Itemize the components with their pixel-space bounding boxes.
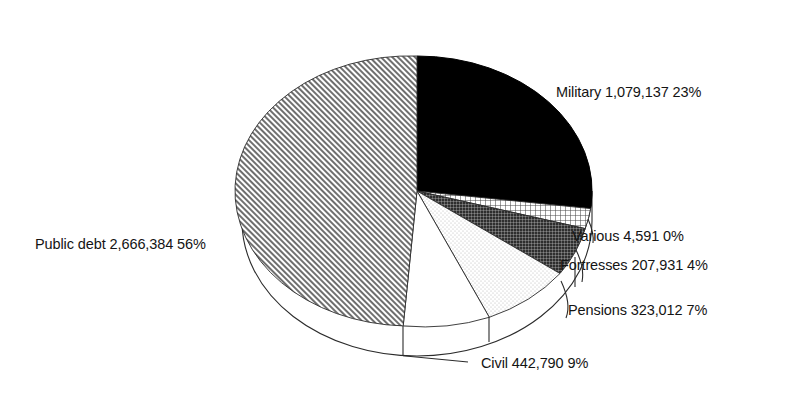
slice-public-debt[interactable] (235, 56, 417, 326)
slice-military[interactable] (417, 56, 592, 209)
slice-label-various: Various 4,591 0% (572, 228, 684, 245)
slice-label-fortresses: Fortresses 207,931 4% (560, 257, 708, 274)
pie-chart-graphic (0, 0, 787, 398)
pie-chart: Military 1,079,137 23% Various 4,591 0% … (0, 0, 787, 398)
leader-line-civil (403, 356, 468, 362)
slice-label-civil: Civil 442,790 9% (481, 355, 588, 372)
slice-label-pensions: Pensions 323,012 7% (568, 302, 707, 319)
pie-slices (235, 56, 592, 327)
slice-label-public-debt: Public debt 2,666,384 56% (35, 236, 206, 253)
slice-label-military: Military 1,079,137 23% (556, 84, 701, 101)
